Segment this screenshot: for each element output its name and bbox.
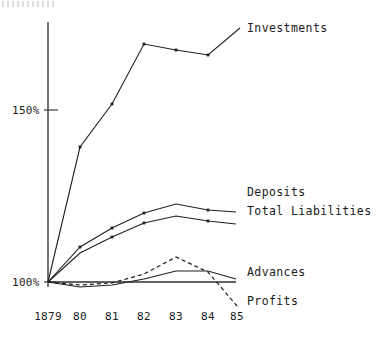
x-tick-label-80: 80 [73, 310, 87, 323]
series-markers-total-liabilities [111, 220, 210, 239]
series-label-deposits: Deposits [247, 185, 306, 199]
series-label-profits: Profits [247, 294, 298, 308]
series-label-advances: Advances [247, 265, 306, 279]
y-tick-label-150: 150% [12, 104, 40, 117]
x-tick-label-82: 82 [137, 310, 151, 323]
series-label-total-liabilities: Total Liabilities [247, 204, 372, 218]
x-tick-label-85: 85 [230, 310, 244, 323]
series-markers-deposits [79, 209, 210, 249]
chart-figure: Investments Deposits Total Liabilities A… [0, 0, 385, 338]
y-tick-label-100: 100% [12, 276, 40, 289]
x-tick-label-84: 84 [201, 310, 215, 323]
x-tick-label-83: 83 [169, 310, 183, 323]
x-tick-label-81: 81 [105, 310, 119, 323]
series-markers-investments [79, 43, 210, 149]
series-line-investments [48, 28, 240, 282]
line-chart-canvas: Investments Deposits Total Liabilities A… [0, 0, 385, 338]
x-tick-label-1879: 1879 [34, 310, 62, 323]
series-line-deposits [48, 204, 236, 282]
series-label-investments: Investments [247, 21, 328, 35]
